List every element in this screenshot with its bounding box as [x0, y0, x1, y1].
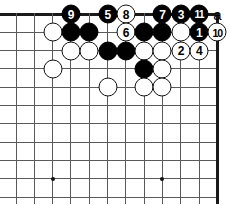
board-grid-line-horizontal — [0, 87, 218, 88]
board-grid-line-vertical — [107, 13, 108, 204]
board-grid-line-horizontal — [0, 160, 218, 161]
board-grid-line-horizontal — [0, 123, 218, 124]
board-grid-line-horizontal — [0, 178, 218, 179]
board-grid-line-vertical — [144, 13, 145, 204]
board-edge-line-top — [0, 13, 218, 16]
board-grid — [0, 0, 230, 205]
board-grid-line-vertical — [70, 13, 71, 204]
board-grid-line-horizontal — [0, 105, 218, 106]
board-grid-line-vertical — [180, 13, 181, 204]
star-point — [51, 177, 55, 181]
board-grid-line-horizontal — [0, 32, 218, 33]
go-board-diagram: 9586732111410 a — [0, 0, 230, 205]
board-grid-line-horizontal — [0, 68, 218, 69]
board-grid-line-vertical — [199, 13, 200, 204]
board-grid-line-horizontal — [0, 197, 218, 198]
board-grid-line-horizontal — [0, 50, 218, 51]
board-grid-line-vertical — [162, 13, 163, 204]
board-grid-line-vertical — [16, 13, 17, 204]
board-grid-line-vertical — [125, 13, 126, 204]
board-grid-line-vertical — [89, 13, 90, 204]
board-edge-line-right — [216, 13, 219, 204]
board-grid-line-vertical — [34, 13, 35, 204]
board-grid-line-vertical — [52, 13, 53, 204]
board-grid-line-horizontal — [0, 142, 218, 143]
star-point — [160, 177, 164, 181]
